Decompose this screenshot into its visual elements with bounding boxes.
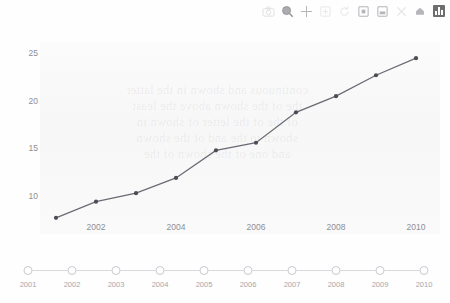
timeline-knob[interactable] (376, 266, 385, 275)
reset-axes-icon[interactable] (375, 4, 389, 18)
timeline-knob[interactable] (68, 266, 77, 275)
series-marker[interactable] (54, 216, 58, 220)
timeline-year-label: 2004 (152, 280, 169, 289)
year-timeline-slider[interactable]: 2001200220032004200520062007200820092010 (0, 262, 450, 302)
series-marker[interactable] (134, 191, 138, 195)
timeline-year-label: 2001 (20, 280, 37, 289)
close-icon[interactable] (394, 4, 408, 18)
timeline-year-label: 2006 (240, 280, 257, 289)
series-marker[interactable] (254, 141, 258, 145)
timeline-track[interactable] (28, 270, 424, 271)
reset-rotate-icon[interactable] (337, 4, 351, 18)
timeline-knob[interactable] (288, 266, 297, 275)
series-marker[interactable] (214, 148, 218, 152)
timeline-knob[interactable] (244, 266, 253, 275)
timeline-year-label: 2005 (196, 280, 213, 289)
chart-page: continuous and shown in the latter the o… (0, 0, 450, 303)
timeline-knob[interactable] (156, 266, 165, 275)
move-crosshair-icon[interactable] (299, 4, 313, 18)
autoscale-icon[interactable] (356, 4, 370, 18)
timeline-year-label: 2008 (328, 280, 345, 289)
series-marker[interactable] (374, 73, 378, 77)
camera-icon[interactable] (261, 4, 275, 18)
timeline-knob[interactable] (112, 266, 121, 275)
series-marker[interactable] (294, 110, 298, 114)
series-marker[interactable] (414, 56, 418, 60)
timeline-year-label: 2007 (284, 280, 301, 289)
series-line (56, 58, 416, 218)
data-series (0, 26, 450, 256)
series-marker[interactable] (334, 94, 338, 98)
chart-logo-icon[interactable] (432, 4, 446, 18)
timeline-year-label: 2003 (108, 280, 125, 289)
timeline-knob[interactable] (420, 266, 429, 275)
timeline-knob[interactable] (24, 266, 33, 275)
home-icon[interactable] (413, 4, 427, 18)
line-chart[interactable]: continuous and shown in the latter the o… (0, 26, 450, 256)
timeline-year-label: 2009 (372, 280, 389, 289)
series-marker[interactable] (94, 200, 98, 204)
chart-toolbar[interactable] (261, 2, 446, 20)
timeline-year-label: 2010 (416, 280, 433, 289)
timeline-knob[interactable] (332, 266, 341, 275)
zoom-in-box-icon[interactable] (318, 4, 332, 18)
timeline-knob[interactable] (200, 266, 209, 275)
series-marker[interactable] (174, 176, 178, 180)
zoom-search-icon[interactable] (280, 4, 294, 18)
timeline-year-label: 2002 (64, 280, 81, 289)
